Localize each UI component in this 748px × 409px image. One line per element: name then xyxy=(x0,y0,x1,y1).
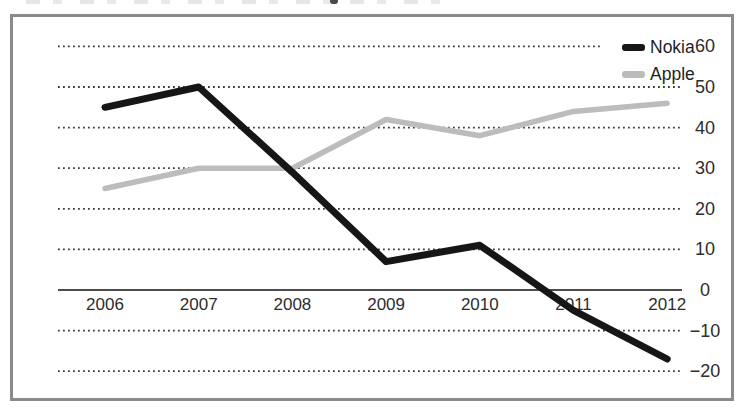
y-axis-tick-label: −10 xyxy=(690,321,721,341)
apple-line-swatch xyxy=(622,71,645,78)
y-axis-tick-label: 0 xyxy=(700,280,710,300)
y-axis-tick-label: 40 xyxy=(695,118,715,138)
x-axis-tick-label: 2007 xyxy=(180,295,218,314)
x-axis-tick-label: 2009 xyxy=(367,295,405,314)
cropped-text-remnant-mark xyxy=(330,0,338,4)
legend-item-apple: Apple xyxy=(622,61,695,88)
y-axis-tick-label: 10 xyxy=(695,239,715,259)
x-axis-tick-label: 2010 xyxy=(461,295,499,314)
chart-frame: 6050403020100−10−20200620072008200920102… xyxy=(10,14,734,401)
x-axis-tick-label: 2008 xyxy=(273,295,311,314)
y-axis-tick-label: −20 xyxy=(690,361,721,381)
legend-item-nokia: Nokia xyxy=(622,34,695,61)
scanned-chart-page: { "figure": { "background": "#ffffff", "… xyxy=(0,0,748,409)
x-axis-tick-label: 2006 xyxy=(86,295,124,314)
chart-legend: Nokia Apple xyxy=(622,34,695,88)
y-axis-tick-label: 30 xyxy=(695,158,715,178)
x-axis-tick-label: 2012 xyxy=(648,295,686,314)
legend-label-nokia: Nokia xyxy=(650,39,695,57)
y-axis-tick-label: 20 xyxy=(695,199,715,219)
cropped-text-remnant xyxy=(26,0,446,4)
y-axis-tick-label: 50 xyxy=(695,77,715,97)
nokia-line-swatch xyxy=(622,44,645,51)
legend-label-apple: Apple xyxy=(650,66,695,84)
series-line-apple xyxy=(105,103,667,188)
y-axis-tick-label: 60 xyxy=(695,36,715,56)
